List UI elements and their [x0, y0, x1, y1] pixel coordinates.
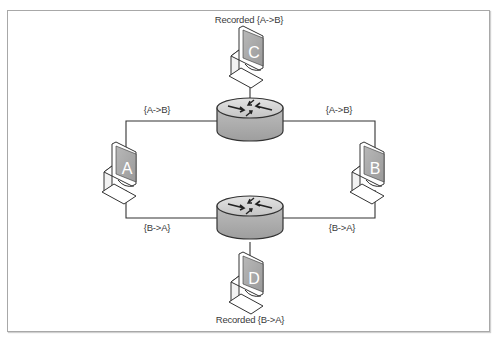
caption-d-recorded: Recorded {B->A} — [216, 314, 285, 325]
link-label-bottom-left: {B->A} — [144, 222, 171, 233]
link-label-top-right: {A->B} — [326, 104, 353, 115]
link-a-router-top — [126, 121, 217, 150]
node-d-label: D — [248, 270, 260, 287]
caption-c-recorded: Recorded {A->B} — [215, 14, 284, 25]
network-diagram: C A B D — [0, 0, 496, 338]
node-b-label: B — [370, 160, 381, 177]
link-a-router-bottom — [126, 190, 217, 218]
link-label-bottom-right: {B->A} — [329, 222, 356, 233]
router-top-icon — [217, 98, 283, 141]
link-label-top-left: {A->B} — [144, 104, 171, 115]
router-bottom-icon — [217, 196, 283, 239]
node-a-label: A — [122, 160, 133, 177]
node-c-label: C — [248, 44, 260, 61]
